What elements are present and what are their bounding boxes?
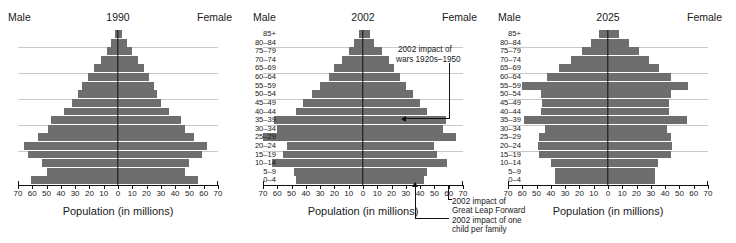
x-tick-label: 20 <box>85 188 94 200</box>
x-tick-label: 60 <box>199 188 208 200</box>
bar-female <box>118 99 161 107</box>
wars-leader-horizontal <box>406 118 450 119</box>
great-leap-leader-vertical <box>448 186 449 200</box>
bar-male <box>94 64 118 72</box>
wars-leader-vertical <box>449 63 450 119</box>
bar-male <box>571 56 608 64</box>
x-tick-label: 0 <box>116 188 120 200</box>
x-tick-label: 0 <box>361 188 365 200</box>
bar-male <box>555 168 608 176</box>
x-tick-label: 50 <box>185 188 194 200</box>
bar-male <box>78 90 118 98</box>
x-axis-title: Population (in millions) <box>0 205 236 217</box>
bar-female <box>363 159 447 167</box>
bar-male <box>82 82 118 90</box>
bar-female <box>118 142 207 150</box>
plot-area-1990 <box>18 30 218 185</box>
x-axis-title: Population (in millions) <box>245 205 481 217</box>
x-axis <box>263 185 463 186</box>
bar-male <box>294 168 363 176</box>
bar-male <box>349 47 363 55</box>
bar-male <box>287 142 363 150</box>
bar-female <box>363 39 374 47</box>
annotation-wars-line1: 2002 impact of <box>398 45 452 54</box>
x-tick-label: 20 <box>575 188 584 200</box>
annotation-one-child-line2: child per family <box>452 225 507 234</box>
bar-female <box>608 125 667 133</box>
bar-female <box>608 39 629 47</box>
bar-female <box>118 176 198 184</box>
age-label-column-2: 85+80–8475–7970–7465–6960–6455–5950–5445… <box>481 30 521 185</box>
x-tick-label: 40 <box>56 188 65 200</box>
bar-male <box>541 108 608 116</box>
panel-header: Male1990Female <box>0 10 236 24</box>
bar-female <box>608 168 655 176</box>
center-axis <box>362 30 363 185</box>
wars-arrowhead <box>401 116 406 122</box>
pyramid-panel-2002: Male2002Female70605040302010010203040506… <box>245 0 481 243</box>
panel-header: Male2025Female <box>490 10 726 24</box>
x-tick-label: 10 <box>373 188 382 200</box>
bar-male <box>551 159 608 167</box>
bar-male <box>64 108 118 116</box>
bar-female <box>363 151 437 159</box>
x-tick-label: 50 <box>430 188 439 200</box>
female-label: Female <box>687 10 722 24</box>
bar-male <box>42 159 118 167</box>
bar-male <box>547 73 608 81</box>
x-tick-label: 70 <box>704 188 713 200</box>
bar-female <box>608 176 655 184</box>
bar-male <box>101 56 118 64</box>
x-tick-label: 30 <box>646 188 655 200</box>
x-tick-labels: 70605040302010010203040506070 <box>490 188 726 200</box>
bar-female <box>608 47 639 55</box>
x-tick-label: 20 <box>330 188 339 200</box>
x-tick-label: 10 <box>618 188 627 200</box>
x-axis <box>18 185 218 186</box>
female-label: Female <box>197 10 232 24</box>
bar-female <box>363 133 456 141</box>
x-tick-label: 50 <box>532 188 541 200</box>
x-tick-label: 10 <box>589 188 598 200</box>
x-tick-label: 0 <box>606 188 610 200</box>
one-child-leader-horizontal <box>415 218 449 219</box>
bar-male <box>539 151 608 159</box>
bar-female <box>118 82 154 90</box>
x-tick-labels: 70605040302010010203040506070 <box>245 188 481 200</box>
bar-male <box>48 125 118 133</box>
bar-female <box>118 133 194 141</box>
x-tick-label: 40 <box>546 188 555 200</box>
bar-male <box>28 151 118 159</box>
one-child-arrowhead <box>412 182 418 187</box>
bar-female <box>608 64 659 72</box>
bar-female <box>118 39 127 47</box>
bar-male <box>555 176 608 184</box>
x-tick-labels: 70605040302010010203040506070 <box>0 188 236 200</box>
bar-male <box>545 125 608 133</box>
annotation-wars-line2: wars 1920s–1950 <box>396 55 461 64</box>
bar-female <box>118 159 189 167</box>
bar-male <box>329 73 363 81</box>
x-tick-label: 60 <box>273 188 282 200</box>
pyramid-panel-2025: Male2025Female70605040302010010203040506… <box>490 0 726 243</box>
x-axis <box>508 185 708 186</box>
female-label: Female <box>442 10 477 24</box>
bar-male <box>342 56 363 64</box>
bar-female <box>363 99 420 107</box>
bar-female <box>608 133 671 141</box>
bar-female <box>608 142 672 150</box>
bar-female <box>363 64 394 72</box>
bar-female <box>608 116 687 124</box>
bar-male <box>296 176 363 184</box>
bar-male <box>320 82 363 90</box>
annotation-great-leap-line1: 2002 impact of <box>452 197 506 206</box>
bar-male <box>107 47 118 55</box>
x-tick-label: 60 <box>518 188 527 200</box>
bar-female <box>363 142 434 150</box>
axis-endcap <box>18 181 19 186</box>
x-tick-label: 50 <box>42 188 51 200</box>
bar-female <box>118 151 202 159</box>
x-tick-label: 70 <box>14 188 23 200</box>
x-tick-label: 40 <box>416 188 425 200</box>
bar-male <box>47 168 118 176</box>
